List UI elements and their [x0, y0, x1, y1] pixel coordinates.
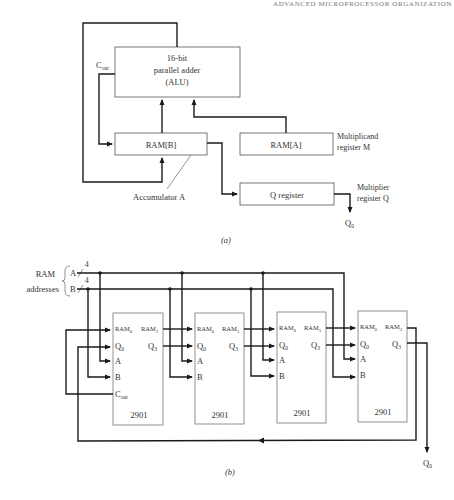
chip-1: RAM0 RAM3 Q0 Q3 A B Cout 2901: [113, 313, 163, 425]
q-register-output-wire: [334, 194, 350, 212]
chip-2: RAM0 RAM3 Q0 Q3 A B 2901: [195, 313, 244, 424]
chip-2-b-pin: B: [197, 372, 203, 382]
caption-a: (a): [221, 235, 231, 245]
chip-1-name: 2901: [131, 410, 148, 420]
chip-3: RAM0 RAM3 Q0 Q3 A B 2901: [277, 312, 326, 423]
chip-4-b-pin: B: [360, 370, 366, 380]
chip-4-name: 2901: [375, 407, 392, 417]
ram-b-label: RAM[B]: [146, 140, 177, 150]
chip1-a-wire: [100, 273, 110, 361]
q0-output-label-b: Q0: [423, 458, 432, 469]
multiplicand-label-line1: Multiplicand: [337, 132, 378, 141]
multiplier-label-line1: Multiplier: [357, 183, 390, 192]
chip1-b-wire: [88, 289, 110, 377]
cout-to-ram0-feedback: [66, 330, 113, 394]
ram-a-to-alu-wire: [194, 100, 286, 133]
cout-wire: [99, 74, 115, 144]
bus-a-label: A: [70, 268, 77, 278]
accumulator-leader-line: [167, 155, 191, 189]
accumulator-label: Accumulator A: [133, 192, 186, 202]
chip-1-b-pin: B: [115, 372, 121, 382]
ram-b-to-q-wire: [207, 143, 237, 194]
ram-addresses-label-line2: addresses: [26, 284, 59, 294]
bus-a-width: 4: [85, 260, 89, 269]
alu-label-line3: (ALU): [165, 77, 188, 87]
multiplier-label-line2: register Q: [357, 194, 389, 203]
ram-addresses-label-line1: RAM: [36, 269, 56, 279]
chip3-a-wire: [263, 273, 274, 360]
q0-output-label-a: Q0: [345, 218, 354, 229]
multiplicand-label-line2: register M: [337, 143, 370, 152]
loop-direction-arrow: [258, 438, 264, 444]
chip-3-b-pin: B: [279, 371, 285, 381]
cout-label: Cout: [96, 60, 109, 71]
chip2-a-wire: [182, 273, 192, 361]
chip-4-a-pin: A: [360, 354, 367, 364]
chip-3-a-pin: A: [279, 355, 286, 365]
bus-b-label: B: [70, 284, 76, 294]
bus-b-width: 4: [85, 276, 89, 285]
chip-4: RAM0 RAM3 Q0 Q3 A B 2901: [358, 311, 407, 422]
running-header: ADVANCED MICROPROCESSOR ORGANIZATION: [273, 0, 452, 8]
address-brace: [62, 266, 70, 296]
chip2-b-wire: [170, 289, 192, 377]
chip-1-a-pin: A: [115, 356, 122, 366]
q-register-label: Q register: [270, 190, 304, 200]
ram-a-label: RAM[A]: [270, 140, 301, 150]
caption-b: (b): [225, 467, 235, 477]
figure-page: ADVANCED MICROPROCESSOR ORGANIZATION 16-…: [0, 0, 454, 500]
part-b-diagram: RAM addresses A B 4 4: [26, 260, 432, 477]
chip-2-a-pin: A: [197, 356, 204, 366]
part-a-diagram: 16-bit parallel adder (ALU) Cout RAM[B] …: [83, 23, 390, 245]
alu-label-line2: parallel adder: [154, 65, 201, 75]
diagram-canvas: 16-bit parallel adder (ALU) Cout RAM[B] …: [0, 0, 454, 500]
q3-output-wire: [407, 343, 427, 452]
alu-label-line1: 16-bit: [167, 53, 188, 63]
chip-2-name: 2901: [212, 410, 229, 420]
chip-3-name: 2901: [294, 408, 311, 418]
